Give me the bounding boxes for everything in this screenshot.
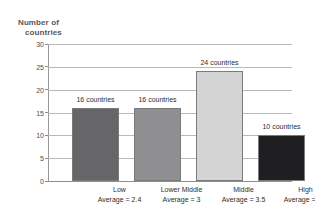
y-tick-mark-10 [45,135,48,136]
y-axis-title-line-1: Number of [18,18,88,28]
y-tick-mark-30 [45,44,48,45]
gridline-20 [48,90,292,91]
category-label-lower-middle: Lower Middle Average = 3 [161,185,203,204]
category-name-lower-middle: Lower Middle [161,185,203,195]
bar-label-high: 10 countries [262,123,300,130]
bar-high [258,135,305,181]
gridline-30 [48,44,292,45]
y-tick-mark-0 [45,181,48,182]
bar-low [72,108,119,181]
category-name-high: High [284,185,315,195]
y-tick-label-30: 30 [36,41,44,48]
bar-label-lower-middle: 16 countries [138,96,176,103]
y-axis-title: Number of countries [18,18,88,38]
y-tick-mark-15 [45,112,48,113]
bar-label-low: 16 countries [76,96,114,103]
category-average-middle: Average = 3.5 [222,195,266,205]
bar-label-middle: 24 countries [200,59,238,66]
y-tick-mark-5 [45,158,48,159]
bar-lower-middle [134,108,181,181]
category-label-middle: Middle Average = 3.5 [222,185,266,204]
gridline-25 [48,67,292,68]
y-tick-label-5: 5 [40,155,44,162]
y-tick-label-25: 25 [36,63,44,70]
y-tick-label-15: 15 [36,109,44,116]
y-tick-label-0: 0 [40,178,44,185]
y-tick-mark-25 [45,66,48,67]
category-average-high: Average = 4.1 [284,195,315,205]
category-average-lower-middle: Average = 3 [161,195,203,205]
gridline-0-baseline [48,181,292,182]
plot-area: 30 25 20 15 10 5 0 16 [48,44,292,181]
y-tick-label-20: 20 [36,86,44,93]
category-average-low: Average = 2.4 [98,195,142,205]
bar-middle [196,71,243,181]
category-name-low: Low [98,185,142,195]
y-tick-label-10: 10 [36,132,44,139]
y-tick-mark-20 [45,89,48,90]
category-name-middle: Middle [222,185,266,195]
category-label-low: Low Average = 2.4 [98,185,142,204]
bar-chart: Number of countries 30 25 20 15 [0,0,315,222]
y-axis-title-line-2: countries [18,28,88,38]
category-label-high: High Average = 4.1 [284,185,315,204]
